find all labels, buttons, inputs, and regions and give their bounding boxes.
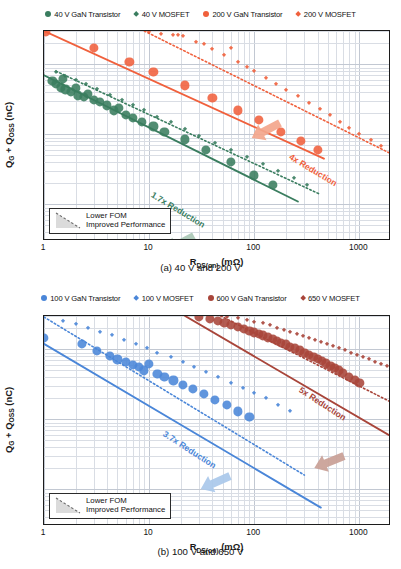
x-tick-label: 10 <box>143 242 152 252</box>
plot-area-b: QG + QOSS (nC) RDS(on) (mΩ) 3.7x Reducti… <box>43 315 390 525</box>
x-tick-label: 1 <box>41 242 46 252</box>
legend-marker-diamond-icon <box>296 11 302 17</box>
legend-panel-b: 100 V GaN Transistor100 V MOSFET600 V Ga… <box>0 290 401 306</box>
data-point <box>281 327 286 332</box>
y-axis-label-a: QG + QOSS (nC) <box>3 102 16 168</box>
legend-entry-b-0: 100 V GaN Transistor <box>41 294 120 303</box>
x-tick-label: 10 <box>143 527 152 537</box>
x-tick-label: 100 <box>246 242 260 252</box>
x-tick-label: 100 <box>246 527 260 537</box>
legend-marker-diamond-icon <box>133 295 139 301</box>
caption-panel-b: (b) 100 V and 650 V <box>0 546 401 557</box>
plot-frame-a: 1.7x Reduction4x Reduction Lower FOM Imp… <box>43 30 390 240</box>
legend-label: 200 V GaN Transistor <box>212 10 282 19</box>
data-point <box>107 92 112 97</box>
legend-entry-a-3: 200 V MOSFET <box>296 10 355 19</box>
x-tick-label: 1000 <box>349 242 368 252</box>
inset-line2-a: Improved Performance <box>86 221 165 230</box>
figure-gan-vs-mosfet-fom: 40 V GaN Transistor40 V MOSFET200 V GaN … <box>0 0 401 569</box>
y-axis-label-b: QG + QOSS (nC) <box>3 387 16 453</box>
legend-label: 40 V MOSFET <box>142 10 190 19</box>
legend-label: 600 V GaN Transistor <box>217 294 287 303</box>
legend-entry-a-2: 200 V GaN Transistor <box>203 10 282 19</box>
chart-panel-b: 100 V GaN Transistor100 V MOSFET600 V Ga… <box>0 284 401 569</box>
legend-entry-a-1: 40 V MOSFET <box>134 10 189 19</box>
caption-panel-a: (a) 40 V and 200 V <box>0 262 401 273</box>
legend-label: 200 V MOSFET <box>304 10 356 19</box>
legend-entry-a-0: 40 V GaN Transistor <box>45 10 120 19</box>
legend-entry-b-3: 650 V MOSFET <box>301 294 360 303</box>
legend-marker-circle-icon <box>41 295 47 301</box>
legend-label: 650 V MOSFET <box>308 294 360 303</box>
legend-marker-diamond-icon <box>300 295 306 301</box>
trendline <box>44 344 321 508</box>
lower-fom-arrow-icon <box>55 212 81 230</box>
plot-area-a: QG + QOSS (nC) RDS(on) (mΩ) 1.7x Reducti… <box>43 30 390 240</box>
legend-marker-circle-icon <box>208 295 214 301</box>
inset-line2-b: Improved Performance <box>86 506 165 515</box>
legend-marker-circle-icon <box>203 11 209 17</box>
legend-label: 100 V MOSFET <box>142 294 194 303</box>
reduction-arrow-icon <box>311 448 347 477</box>
lower-fom-arrow-icon <box>55 497 81 515</box>
legend-panel-a: 40 V GaN Transistor40 V MOSFET200 V GaN … <box>0 6 401 22</box>
legend-marker-diamond-icon <box>133 11 139 17</box>
chart-panel-a: 40 V GaN Transistor40 V MOSFET200 V GaN … <box>0 0 401 285</box>
legend-label: 40 V GaN Transistor <box>54 10 120 19</box>
reduction-arrow-icon <box>197 468 234 497</box>
legend-entry-b-1: 100 V MOSFET <box>134 294 193 303</box>
legend-marker-circle-icon <box>45 11 51 17</box>
legend-label: 100 V GaN Transistor <box>50 294 120 303</box>
inset-legend-b: Lower FOM Improved Performance <box>49 493 171 519</box>
x-tick-label: 1 <box>41 527 46 537</box>
plot-frame-b: 3.7x Reduction5x Reduction Lower FOM Imp… <box>43 315 390 525</box>
legend-entry-b-2: 600 V GaN Transistor <box>208 294 287 303</box>
x-tick-label: 1000 <box>349 527 368 537</box>
inset-legend-a: Lower FOM Improved Performance <box>49 208 171 234</box>
